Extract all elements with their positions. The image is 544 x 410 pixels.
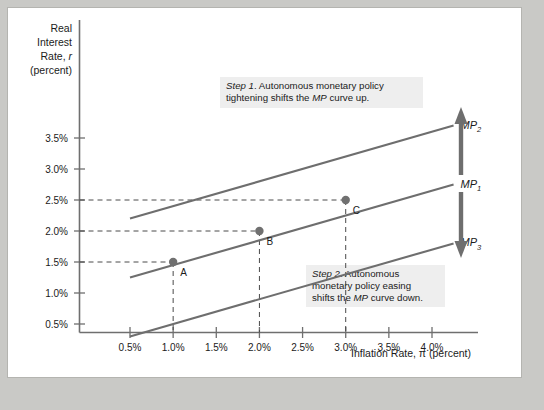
equilibrium-point-C xyxy=(342,196,350,204)
svg-text:Step 1. Autonomous monetary po: Step 1. Autonomous monetary policy xyxy=(226,80,384,91)
svg-text:tightening shifts the MP curve: tightening shifts the MP curve up. xyxy=(226,92,369,103)
point-label-B: B xyxy=(266,236,273,247)
y-axis-title-line-2: Interest xyxy=(37,36,72,48)
y-tick-label: 1.5% xyxy=(45,257,68,268)
point-label-A: A xyxy=(180,267,187,278)
x-tick-label: 1.0% xyxy=(162,342,185,353)
annotation-step-1: Step 1. Autonomous monetary policy tight… xyxy=(220,77,423,108)
step-2-line3-a: shifts the xyxy=(312,292,353,303)
y-tick-label: 2.5% xyxy=(45,195,68,206)
annotation-step-2: Step 2. Autonomous monetary policy easin… xyxy=(306,265,445,307)
mp-curve-chart: Step 1. Autonomous monetary policy tight… xyxy=(8,8,521,377)
y-tick-label: 3.5% xyxy=(45,133,68,144)
mp-curve-MP2 xyxy=(130,126,454,219)
y-tick-label: 0.5% xyxy=(45,319,68,330)
step-1-lead: Step 1 xyxy=(226,80,254,91)
y-tick-label: 2.0% xyxy=(45,226,68,237)
y-axis-title: Real Interest Rate, r (percent) xyxy=(30,22,73,76)
equilibrium-point-A xyxy=(169,258,177,266)
step-2-line3-em: MP xyxy=(353,292,368,303)
x-tick-label: 0.5% xyxy=(119,342,142,353)
x-tick-label: 2.0% xyxy=(248,342,271,353)
point-label-C: C xyxy=(353,205,360,216)
y-axis-title-line-3: Rate, r xyxy=(40,50,72,62)
step-2-line3-b: curve down. xyxy=(368,292,423,303)
step-1-line1-rest: . Autonomous monetary policy xyxy=(254,80,384,91)
y-axis-title-line-1: Real xyxy=(50,22,72,34)
step-1-line2-a: tightening shifts the xyxy=(226,92,312,103)
curve-label-MP1: MP1 xyxy=(461,178,482,194)
x-axis-title: Inflation Rate, π (percent) xyxy=(351,347,471,359)
svg-text:Step 2. Autonomous: Step 2. Autonomous xyxy=(312,268,399,279)
y-axis-title-line-4: (percent) xyxy=(30,64,72,76)
y-tick-label: 1.0% xyxy=(45,288,68,299)
svg-text:shifts the MP curve down.: shifts the MP curve down. xyxy=(312,292,423,303)
figure-card: Step 1. Autonomous monetary policy tight… xyxy=(7,7,522,378)
equilibrium-point-B xyxy=(255,227,263,235)
x-tick-label: 1.5% xyxy=(205,342,228,353)
step-1-line2-em: MP xyxy=(312,92,327,103)
x-tick-label: 2.5% xyxy=(291,342,314,353)
step-1-line2-b: curve up. xyxy=(327,92,370,103)
y-tick-label: 3.0% xyxy=(45,164,68,175)
mp-curve-labels: MP2MP1MP3 xyxy=(461,119,483,252)
step-2-line2: monetary policy easing xyxy=(312,280,411,291)
